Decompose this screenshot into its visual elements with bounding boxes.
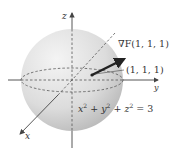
eq-equals: = 3 [133, 103, 153, 114]
point-label: (1, 1, 1) [126, 65, 164, 75]
z-axis-label: z [62, 12, 67, 21]
y-axis-label: y [154, 84, 159, 92]
eq-plus-1: + [87, 103, 101, 114]
point-dot [90, 73, 93, 76]
sphere-equation: x2 + y2 + z2 = 3 [78, 103, 153, 114]
eq-plus-2: + [110, 103, 124, 114]
sphere-gradient-diagram: z y x ∇F(1, 1, 1) (1, 1, 1) x2 + y2 + z2… [0, 0, 176, 148]
x-axis-label: x [25, 132, 30, 141]
gradient-label: ∇F(1, 1, 1) [118, 39, 169, 49]
